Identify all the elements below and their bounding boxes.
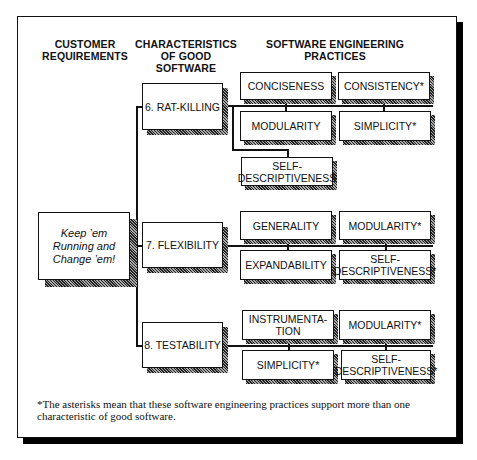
practice-simplicity-test: SIMPLICITY* [242,350,334,380]
connector-flexibility-out [223,245,433,247]
connector-ratkilling-out [223,105,333,107]
practice-expandability: EXPANDABILITY [240,250,332,280]
label-line: SELF- [238,160,337,172]
practice-self-descriptiveness-test: SELF-DESCRIPTIVENESS* [341,350,431,380]
label-line: SELF- [335,353,438,365]
connector-testability-out [223,345,433,347]
requirement-line: Change ’em! [53,253,115,266]
footnote: *The asterisks mean that these software … [37,398,447,422]
practice-instrumentation: INSTRUMENTA-TION [242,310,334,340]
header-customer-requirements: CUSTOMER REQUIREMENTS [40,38,130,62]
practice-self-descriptiveness-flex: SELF-DESCRIPTIVENESS* [339,250,431,280]
practice-conciseness: CONCISENESS [240,72,332,100]
connector-ratkilling-selfdesc-v [287,149,289,157]
characteristic-flexibility: 7. FLEXIBILITY [142,222,223,268]
characteristic-testability: 8. TESTABILITY [142,322,223,368]
header-practices: SOFTWARE ENGINEERING PRACTICES [265,38,405,62]
header-line: OF GOOD SOFTWARE [130,50,242,74]
practice-self-descriptiveness: SELF-DESCRIPTIVENESS [241,157,333,186]
header-line: PRACTICES [265,50,405,62]
label-line: TION [249,325,328,337]
requirement-line: Keep ’em [53,227,115,240]
header-line: REQUIREMENTS [40,50,130,62]
header-line: SOFTWARE ENGINEERING [265,38,405,50]
requirement-box: Keep ’em Running and Change ’em! [38,212,130,280]
label-line: DESCRIPTIVENESS* [335,365,438,377]
requirement-line: Running and [53,240,115,253]
label-line: DESCRIPTIVENESS [238,172,337,184]
connector-ratkilling-down [232,105,234,150]
header-line: CUSTOMER [40,38,130,50]
header-line: CHARACTERISTICS [130,38,242,50]
connector-ratkilling-selfdesc [232,149,288,151]
label-line: INSTRUMENTA- [249,313,328,325]
characteristic-rat-killing: 6. RAT-KILLING [142,83,223,130]
practice-modularity-flex: MODULARITY* [339,211,431,240]
label-line: SELF- [334,253,437,265]
practice-generality: GENERALITY [240,211,332,240]
practice-modularity: MODULARITY [240,111,332,141]
label-line: DESCRIPTIVENESS* [334,265,437,277]
practice-modularity-test: MODULARITY* [339,310,431,340]
header-characteristics: CHARACTERISTICS OF GOOD SOFTWARE [130,38,242,74]
practice-simplicity: SIMPLICITY* [339,111,431,141]
practice-consistency: CONSISTENCY* [338,72,430,100]
